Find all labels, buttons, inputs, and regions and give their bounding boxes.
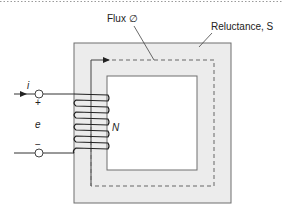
magnetic-core [74,43,231,203]
circuit-terminals [14,90,74,157]
turns-label: N [112,122,120,133]
emf-label: e [35,119,41,130]
magnetic-circuit-figure: Flux ∅ Reluctance, S i + e − N [0,0,283,215]
current-label: i [27,80,30,91]
flux-label: Flux ∅ [107,13,138,24]
current-arrow-icon [20,91,27,97]
reluctance-label: Reluctance, S [211,21,274,32]
plus-label: + [35,97,41,108]
bottom-terminal [35,149,43,157]
minus-label: − [35,139,41,150]
core-window [107,76,197,170]
